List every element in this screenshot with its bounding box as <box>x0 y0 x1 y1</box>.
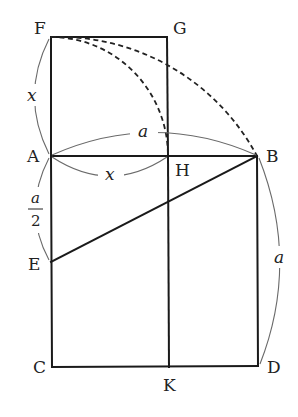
label-ae-numerator: a <box>31 189 40 207</box>
point-label-h: H <box>175 160 190 180</box>
geometry-diagram: x a x a 2 a F G A H B E C K D <box>0 0 298 417</box>
point-label-b: B <box>266 146 279 166</box>
segment-bd <box>257 156 258 366</box>
segment-cd <box>52 366 258 367</box>
label-x-fa: x <box>27 85 37 105</box>
point-label-k: K <box>163 375 176 395</box>
square-afgh <box>51 37 168 156</box>
point-label-f: F <box>34 18 46 38</box>
segment-hk <box>168 156 169 367</box>
point-label-g: G <box>173 18 187 38</box>
label-a-ab: a <box>138 121 148 141</box>
dashed-arc-fh <box>51 37 168 156</box>
point-label-d: D <box>267 357 281 377</box>
square-abdc <box>51 156 258 367</box>
point-label-a: A <box>26 146 40 166</box>
segment-gh <box>167 37 168 156</box>
point-label-c: C <box>33 357 46 377</box>
label-a-bd: a <box>274 247 284 267</box>
label-ae-denominator: 2 <box>31 212 41 230</box>
label-x-ah: x <box>105 164 115 184</box>
point-label-e: E <box>28 254 40 274</box>
dashed-arc-fb <box>51 37 257 156</box>
